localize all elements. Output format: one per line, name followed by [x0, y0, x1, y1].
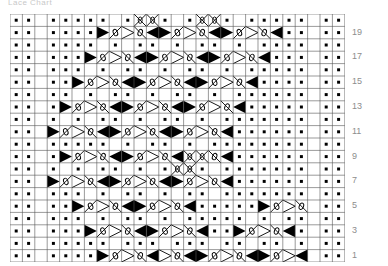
row-number: 5	[352, 200, 380, 210]
chart-gridlines	[10, 14, 345, 262]
chart-canvas: Lace Chart 191715131197531	[0, 0, 388, 266]
row-number: 1	[352, 250, 380, 260]
row-number: 15	[352, 76, 380, 86]
row-number-axis: 191715131197531	[352, 14, 386, 262]
row-number: 13	[352, 101, 380, 111]
chart-svg	[10, 14, 345, 262]
row-number: 9	[352, 151, 380, 161]
knitting-chart-grid[interactable]	[10, 14, 345, 262]
row-number: 7	[352, 175, 380, 185]
row-number: 3	[352, 225, 380, 235]
row-number: 11	[352, 126, 380, 136]
row-number: 17	[352, 51, 380, 61]
row-number: 19	[352, 27, 380, 37]
chart-caption: Lace Chart	[8, 0, 128, 8]
